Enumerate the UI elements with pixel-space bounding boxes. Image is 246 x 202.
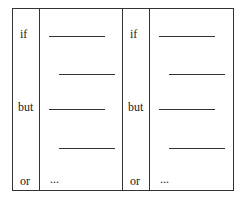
blank-line-4[interactable] — [169, 148, 225, 149]
ellipsis: ... — [50, 173, 59, 185]
blank-line-1[interactable] — [159, 36, 215, 37]
label-or: or — [130, 175, 140, 187]
label-if: if — [20, 28, 27, 40]
column-divider — [39, 9, 40, 190]
column-divider — [149, 9, 150, 190]
right-panel: if but or ... — [122, 8, 234, 191]
blank-line-2[interactable] — [59, 74, 115, 75]
label-but: but — [18, 101, 33, 113]
blank-line-4[interactable] — [59, 148, 115, 149]
left-panel: if but or ... — [12, 8, 124, 191]
blank-line-3[interactable] — [159, 109, 215, 110]
label-if: if — [130, 28, 137, 40]
blank-line-2[interactable] — [169, 74, 225, 75]
label-but: but — [128, 101, 143, 113]
blank-line-1[interactable] — [49, 36, 105, 37]
label-or: or — [20, 175, 30, 187]
blank-line-3[interactable] — [49, 109, 105, 110]
ellipsis: ... — [160, 173, 169, 185]
